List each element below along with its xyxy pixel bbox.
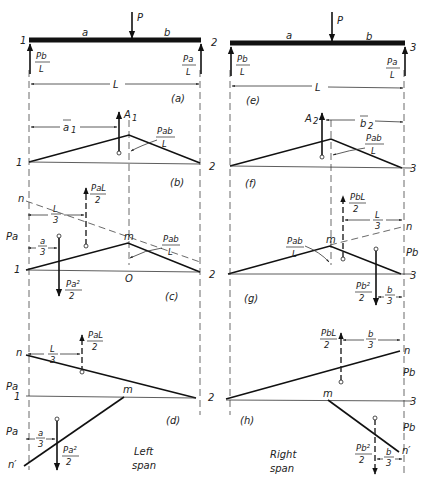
svg-text:2: 2 [368, 121, 373, 131]
pb-label: Pb [406, 247, 418, 258]
panel-f: 2 3 A 2 b 2 Pab L (f) [209, 113, 416, 189]
right-span-caption-line2: span [270, 463, 294, 474]
panel-e: P a b 3 Pb L Pa L L (e) [230, 12, 416, 106]
svg-text:Pa: Pa [387, 57, 397, 67]
point-3-label: 3 [410, 163, 416, 174]
point-m-label: m [326, 234, 336, 245]
baseline [26, 270, 200, 272]
point-o-label: O [125, 273, 133, 284]
svg-text:Pa²: Pa² [66, 279, 80, 289]
svg-text:3: 3 [38, 439, 43, 449]
svg-text:PbL: PbL [321, 328, 337, 338]
centroid-distance-label: a [63, 122, 69, 133]
peak-den: L [162, 139, 167, 149]
panel-a: P a b 1 2 Pb L Pa L L (a) [20, 12, 217, 104]
pb-bottom-label: Pb [403, 422, 415, 433]
point-1-label: 1 [16, 157, 22, 168]
point-n-label: n [18, 193, 24, 204]
baseline [226, 400, 412, 401]
svg-text:2: 2 [359, 293, 364, 303]
area-label: A [304, 113, 312, 124]
segment-b-label: b [164, 27, 170, 38]
svg-text:2: 2 [359, 455, 364, 465]
segment-a-label: a [82, 27, 88, 38]
panel-caption-e: (e) [246, 95, 260, 106]
svg-text:L: L [240, 67, 245, 77]
peak-num: Pab [157, 126, 173, 136]
point-n-prime-label: n′ [8, 459, 17, 470]
svg-text:2: 2 [66, 457, 71, 467]
reaction-right-den: L [186, 67, 191, 77]
point-1-label: 1 [14, 264, 20, 275]
panel-h: n Pb 3 PbL 2 b 3 m n′ Pb Pb² 2 b [226, 328, 416, 474]
baseline [29, 162, 200, 164]
point-m-label: m [323, 388, 333, 399]
point-1-label: 1 [14, 391, 20, 402]
span-label: L [113, 79, 119, 90]
svg-text:L: L [390, 70, 395, 80]
panel-g: n 2 3 m Pb PbL 2 L 3 Pb² 2 b 3 [209, 192, 418, 306]
upper-force-num: PaL [91, 183, 106, 193]
moment-diagram [29, 135, 200, 163]
point-3-label: 3 [410, 270, 416, 281]
svg-text:a: a [38, 428, 43, 438]
left-span-caption-line1: Left [134, 446, 154, 457]
reaction-right-num: Pa [183, 54, 193, 64]
svg-text:3: 3 [50, 355, 55, 365]
pb-top-label: Pb [403, 367, 415, 378]
svg-text:PbL: PbL [350, 192, 366, 202]
svg-text:3: 3 [368, 340, 373, 350]
panel-caption-b: (b) [170, 177, 184, 188]
panel-caption-c: (c) [165, 291, 178, 302]
point-n-label: n [406, 221, 412, 232]
support-1-label: 1 [20, 35, 26, 46]
panel-caption-h: (h) [240, 415, 254, 426]
svg-text:1: 1 [132, 113, 137, 123]
svg-text:b: b [368, 329, 373, 339]
reaction-left-den: L [39, 64, 44, 74]
right-span-caption-line1: Right [270, 449, 297, 460]
svg-text:L: L [50, 344, 55, 354]
point-m-label: m [124, 231, 134, 242]
svg-text:3: 3 [375, 221, 380, 231]
svg-text:3: 3 [40, 247, 45, 257]
left-span-caption-line2: span [132, 460, 156, 471]
svg-text:3: 3 [386, 458, 391, 468]
svg-text:3: 3 [387, 296, 392, 306]
pa-bottom-label: Pa [6, 426, 18, 437]
panel-caption-f: (f) [245, 178, 256, 189]
svg-text:L: L [53, 204, 58, 214]
baseline [26, 396, 196, 398]
svg-text:1: 1 [71, 125, 76, 135]
svg-text:L: L [375, 210, 380, 220]
reaction-left-num: Pb [36, 51, 47, 61]
svg-text:Pab: Pab [163, 234, 179, 244]
right-span: P a b 3 Pb L Pa L L (e) 2 3 A 2 [209, 12, 418, 475]
svg-text:2: 2 [313, 116, 318, 126]
panel-c: n 1 Pa m O PaL 2 L 3 a 3 Pa² [6, 183, 200, 302]
svg-text:2: 2 [353, 204, 358, 214]
dashed-line-n [330, 227, 402, 245]
svg-text:3: 3 [53, 215, 58, 225]
point-m-label: m [123, 384, 133, 395]
load-label: P [337, 15, 344, 26]
span-label: L [315, 82, 321, 93]
point-3-label: 3 [410, 396, 416, 407]
two-span-beam-diagram: P a b 1 2 Pb L Pa L L (a) 1 A 1 [0, 0, 428, 483]
svg-text:PaL: PaL [88, 330, 103, 340]
panel-b: 1 A 1 a 1 Pab L (b) [16, 109, 200, 188]
panel-caption-d: (d) [166, 415, 180, 426]
svg-text:Pb²: Pb² [356, 281, 371, 291]
svg-text:2: 2 [324, 340, 329, 350]
svg-text:b: b [387, 285, 392, 295]
svg-text:Pb²: Pb² [356, 443, 371, 453]
segment-a-label: a [286, 30, 292, 41]
segment-b-label: b [366, 31, 372, 42]
load-label: P [137, 12, 144, 23]
svg-text:2: 2 [95, 195, 100, 205]
svg-text:Pab: Pab [287, 236, 303, 246]
point-n-label: n [404, 345, 410, 356]
support-3-label: 3 [410, 42, 416, 53]
svg-text:L: L [292, 249, 297, 259]
point-2-label: 2 [209, 161, 215, 172]
